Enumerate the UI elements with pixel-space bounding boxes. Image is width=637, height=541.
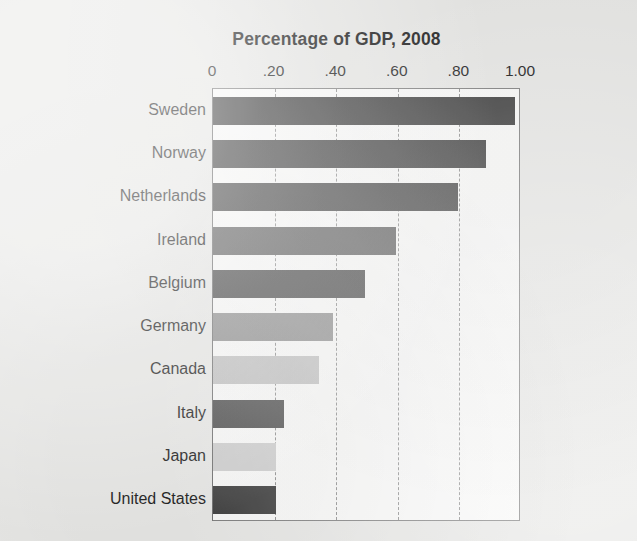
bar-chart-figure: Percentage of GDP, 2008 0.20.40.60.801.0… (0, 0, 637, 541)
category-label: Italy (177, 405, 206, 421)
bar-row (213, 400, 519, 428)
x-tick-label: .20 (263, 62, 285, 80)
category-label: Norway (152, 145, 206, 161)
bar (213, 227, 396, 255)
category-label: Ireland (157, 232, 206, 248)
bar-row (213, 313, 519, 341)
x-tick-label: 1.00 (505, 62, 535, 80)
plot-area (212, 88, 520, 521)
bar-row (213, 183, 519, 211)
bar-row (213, 227, 519, 255)
category-label: United States (110, 491, 206, 507)
x-tick-label: .60 (386, 62, 408, 80)
bar (213, 486, 276, 514)
chart-title: Percentage of GDP, 2008 (0, 29, 637, 50)
bar-row (213, 443, 519, 471)
bar-row (213, 356, 519, 384)
x-tick-label: .40 (324, 62, 346, 80)
bar-row (213, 270, 519, 298)
bar (213, 270, 365, 298)
y-axis-category-labels: SwedenNorwayNetherlandsIrelandBelgiumGer… (0, 88, 206, 521)
x-tick-label: .80 (448, 62, 470, 80)
bar (213, 400, 284, 428)
bar (213, 443, 276, 471)
category-label: Germany (140, 318, 206, 334)
category-label: Japan (162, 448, 206, 464)
bars-layer (213, 89, 519, 520)
bar-row (213, 97, 519, 125)
category-label: Canada (150, 361, 206, 377)
category-label: Sweden (148, 102, 206, 118)
bar (213, 140, 486, 168)
x-tick-label: 0 (208, 62, 217, 80)
bar (213, 313, 333, 341)
bar-row (213, 140, 519, 168)
bar (213, 183, 458, 211)
x-axis-tick-labels: 0.20.40.60.801.00 (212, 62, 520, 82)
bar (213, 356, 319, 384)
category-label: Belgium (148, 275, 206, 291)
category-label: Netherlands (120, 188, 206, 204)
bar-row (213, 486, 519, 514)
bar (213, 97, 515, 125)
